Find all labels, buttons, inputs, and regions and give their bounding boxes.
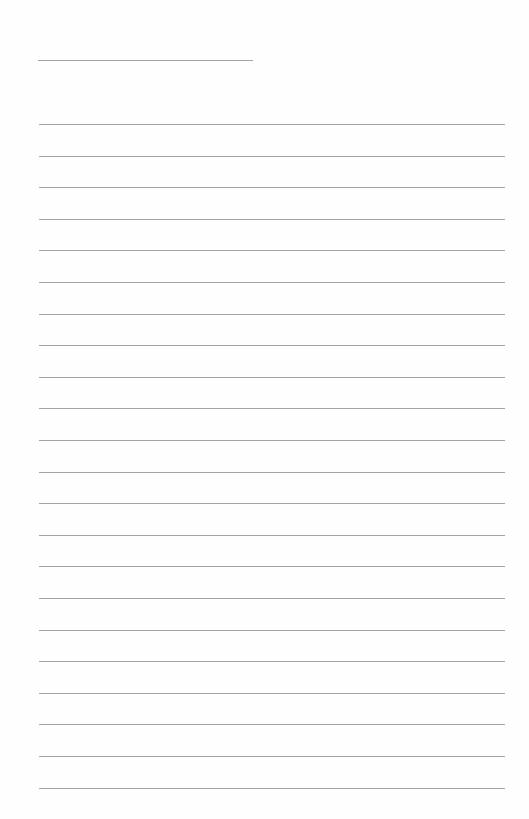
ruled-line xyxy=(39,440,505,441)
ruled-line xyxy=(39,756,505,757)
ruled-line xyxy=(39,156,505,157)
ruled-line xyxy=(39,408,505,409)
ruled-line xyxy=(39,535,505,536)
ruled-line xyxy=(39,566,505,567)
ruled-line xyxy=(39,788,505,789)
ruled-line xyxy=(39,250,505,251)
ruled-line xyxy=(39,377,505,378)
lined-paper-page xyxy=(0,0,529,819)
ruled-line xyxy=(39,693,505,694)
ruled-lines-container xyxy=(0,0,529,819)
ruled-line xyxy=(39,124,505,125)
ruled-line xyxy=(39,219,505,220)
ruled-line xyxy=(39,282,505,283)
ruled-line xyxy=(39,598,505,599)
ruled-line xyxy=(39,661,505,662)
ruled-line xyxy=(39,724,505,725)
ruled-line xyxy=(39,503,505,504)
ruled-line xyxy=(39,345,505,346)
ruled-line xyxy=(39,314,505,315)
ruled-line xyxy=(39,472,505,473)
ruled-line xyxy=(39,630,505,631)
ruled-line xyxy=(39,187,505,188)
